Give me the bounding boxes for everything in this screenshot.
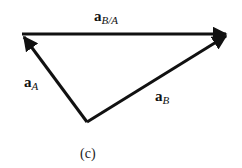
label-aA-base: a: [24, 74, 32, 90]
label-aBA-sub: B/A: [102, 14, 119, 26]
vector-diagram: aB/A aA aB (c): [0, 0, 242, 168]
label-aB: aB: [155, 88, 169, 106]
label-aA-sub: A: [32, 80, 39, 92]
label-aA: aA: [24, 74, 38, 92]
label-aBA: aB/A: [94, 8, 118, 26]
caption: (c): [80, 146, 96, 162]
label-aBA-base: a: [94, 8, 102, 24]
label-aB-sub: B: [163, 94, 170, 106]
vector-aB-arrow: [87, 36, 226, 122]
label-aB-base: a: [155, 88, 163, 104]
